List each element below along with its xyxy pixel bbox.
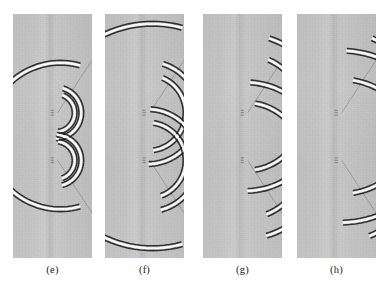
image-noise-texture <box>105 14 184 258</box>
panel-label-e: (e) <box>13 264 92 275</box>
panel-g <box>203 14 282 258</box>
wavefield-image-h <box>297 14 376 258</box>
wavefield-image-g <box>203 14 282 258</box>
panel-label-h: (h) <box>297 264 376 275</box>
image-noise-texture <box>297 14 376 258</box>
wavefield-image-e <box>13 14 92 258</box>
wavefield-image-f <box>105 14 184 258</box>
image-noise-texture <box>13 14 92 258</box>
panel-f <box>105 14 184 258</box>
panel-h <box>297 14 376 258</box>
panel-e <box>13 14 92 258</box>
wavefield-snapshot-figure: (e)(f)(g)(h) <box>0 0 385 294</box>
image-noise-texture <box>203 14 282 258</box>
panel-label-f: (f) <box>105 264 184 275</box>
panel-label-g: (g) <box>203 264 282 275</box>
